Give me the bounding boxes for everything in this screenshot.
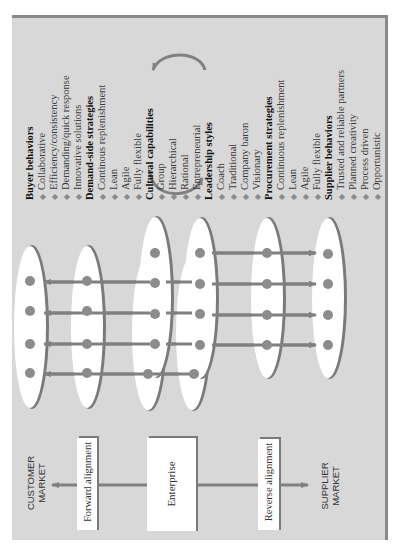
bullet-icon: ◆ xyxy=(253,194,262,200)
bullet-icon: ◆ xyxy=(241,194,250,200)
list-item: ◆Lean xyxy=(108,169,120,200)
bullet-icon: ◆ xyxy=(134,194,143,200)
supplier-market-ellipse xyxy=(312,217,347,379)
list-heading: Supplier behaviors xyxy=(323,115,335,200)
list-item-label: Fully flexible xyxy=(132,133,143,190)
list-item: ◆Agile xyxy=(299,167,311,200)
forward-alignment-label: Forward alignment xyxy=(81,440,95,524)
list-item-label: Agile xyxy=(299,167,310,190)
bullet-icon: ◆ xyxy=(122,194,131,200)
bullet-icon: ◆ xyxy=(74,194,83,200)
list-heading: Cultural capabilities xyxy=(144,108,156,200)
list-item-label: Demanding/quick response xyxy=(60,75,71,190)
reverse-alignment-label: Reverse alignment xyxy=(262,440,276,524)
list-item-label: Company baron xyxy=(239,123,250,190)
forward-alignment-ellipse xyxy=(71,245,106,409)
list-item: ◆Continuous replenishment xyxy=(275,79,287,200)
list-item-label: Continuous replenishment xyxy=(275,79,286,190)
bullet-icon: ◆ xyxy=(157,194,166,200)
bullet-icon: ◆ xyxy=(62,194,71,200)
bullet-icon: ◆ xyxy=(98,194,107,200)
list-item-label: Continous replenishment xyxy=(96,85,107,190)
bullet-icon: ◆ xyxy=(301,194,310,200)
list-item-label: Visionary xyxy=(251,149,262,190)
list-item: ◆Rational xyxy=(179,154,191,200)
customer-market-ellipse xyxy=(14,245,49,409)
bullet-icon: ◆ xyxy=(313,194,322,200)
list-item: ◆Collaborative xyxy=(36,133,48,200)
supplier-market-label: SUPPLIER MARKET xyxy=(319,461,341,511)
list-heading: Demand-side strategies xyxy=(84,96,96,200)
list-item: ◆Opportunistic xyxy=(371,132,383,200)
bullet-icon: ◆ xyxy=(229,194,238,200)
list-item-label: Opportunistic xyxy=(371,132,382,190)
list-item-label: Fully flexible xyxy=(311,133,322,190)
bullet-icon: ◆ xyxy=(361,194,370,200)
list-item-label: Entrepreneurial xyxy=(191,125,202,190)
list-heading: Procurement strategies xyxy=(263,96,275,200)
bullet-icon: ◆ xyxy=(38,194,47,200)
list-item-label: Hierarchical xyxy=(167,138,178,190)
bullet-icon: ◆ xyxy=(50,194,59,200)
list-item: ◆Innovative solutions xyxy=(72,105,84,200)
list-item: ◆Entrepreneurial xyxy=(191,125,203,200)
list-item: ◆Hierarchical xyxy=(167,138,179,200)
list-item-label: Planned creativity xyxy=(347,114,358,190)
list-item: ◆Traditional xyxy=(227,144,239,200)
bullet-icon: ◆ xyxy=(349,194,358,200)
enterprise-label: Enterprise xyxy=(164,444,178,524)
list-item-label: Lean xyxy=(287,169,298,190)
list-item: ◆Fully flexible xyxy=(132,133,144,200)
list-item: ◆Agile xyxy=(120,167,132,200)
bullet-icon: ◆ xyxy=(277,194,286,200)
bullet-icon: ◆ xyxy=(337,194,346,200)
list-item-label: Agile xyxy=(120,167,131,190)
list-heading: Leadership styles xyxy=(203,122,215,200)
list-item-label: Group xyxy=(155,163,166,190)
enterprise-ellipse-front-2 xyxy=(184,217,219,379)
list-item-label: Innovative solutions xyxy=(72,105,83,190)
enterprise-ellipse-front-1 xyxy=(139,216,174,378)
bullet-icon: ◆ xyxy=(289,194,298,200)
bullet-icon: ◆ xyxy=(217,194,226,200)
list-item: ◆Fully flexible xyxy=(311,133,323,200)
list-item-label: Rational xyxy=(179,154,190,190)
bullet-icon: ◆ xyxy=(193,194,202,200)
list-item-label: Efficiency/consistency xyxy=(48,95,59,190)
list-heading: Buyer behaviors xyxy=(24,126,36,200)
list-item: ◆Company baron xyxy=(239,123,251,200)
list-item: ◆Continous replenishment xyxy=(96,85,108,200)
list-item: ◆Visionary xyxy=(251,149,263,200)
bullet-icon: ◆ xyxy=(169,194,178,200)
list-item: ◆Process driven xyxy=(359,128,371,200)
list-item: ◆Lean xyxy=(287,169,299,200)
bullet-icon: ◆ xyxy=(110,194,119,200)
bullet-icon: ◆ xyxy=(181,194,190,200)
customer-market-label: CUSTOMER MARKET xyxy=(25,455,47,511)
list-item: ◆Trusted and reliable partners xyxy=(335,70,347,200)
list-item: ◆Coach xyxy=(215,163,227,200)
list-item-label: Coach xyxy=(215,163,226,190)
list-item: ◆Group xyxy=(155,163,167,200)
list-item-label: Lean xyxy=(108,169,119,190)
list-item-label: Traditional xyxy=(227,144,238,190)
list-item-label: Trusted and reliable partners xyxy=(335,70,346,190)
list-item-label: Process driven xyxy=(359,128,370,190)
list-item: ◆Demanding/quick response xyxy=(60,75,72,200)
list-item-label: Collaborative xyxy=(36,133,47,190)
reverse-alignment-ellipse xyxy=(251,217,286,379)
list-item: ◆Planned creativity xyxy=(347,114,359,200)
list-item: ◆Efficiency/consistency xyxy=(48,95,60,200)
bullet-icon: ◆ xyxy=(373,194,382,200)
